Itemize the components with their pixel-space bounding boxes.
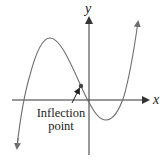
callout-arrow <box>72 89 79 103</box>
y-axis-label: y <box>85 2 91 16</box>
inflection-point-marker <box>79 84 83 88</box>
inflection-point-label: Inflection point <box>26 107 96 133</box>
cubic-inflection-diagram: y x Inflection point <box>0 0 166 166</box>
inflection-label-line2: point <box>26 120 96 133</box>
graph-canvas <box>0 0 166 166</box>
curve-start-arrow <box>17 138 18 148</box>
x-axis-label: x <box>153 93 159 107</box>
